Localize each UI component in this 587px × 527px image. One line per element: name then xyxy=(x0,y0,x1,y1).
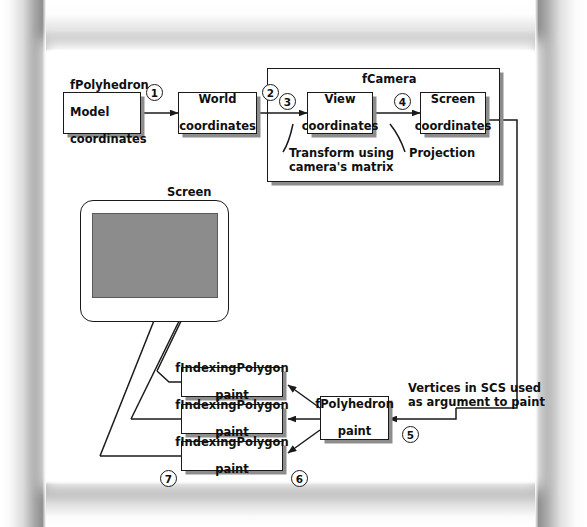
box-indexing-polygon-1-text: fIndexingPolygonpaint xyxy=(169,362,294,403)
annotation-projection: Projection xyxy=(409,147,475,161)
step-number-2: 2 xyxy=(262,84,279,101)
box-indexing-polygon-2-text: fIndexingPolygonpaint xyxy=(169,399,294,440)
box-model-coordinates-text: fPolyhedronModelcoordinates xyxy=(64,79,155,147)
box-world-coordinates[interactable]: Worldcoordinates xyxy=(178,92,257,134)
step-number-1: 1 xyxy=(146,84,163,101)
box-fpolyhedron-paint[interactable]: fPolyhedronpaint xyxy=(320,396,389,440)
step-number-5: 5 xyxy=(402,426,419,443)
step-number-4: 4 xyxy=(394,93,411,110)
annotation-vertices-line2: as argument to paint xyxy=(408,395,545,409)
monitor-display xyxy=(92,213,218,298)
group-fcamera-label: fCamera xyxy=(362,72,416,86)
monitor-frame xyxy=(80,200,229,322)
annotation-vertices-line1: Vertices in SCS used xyxy=(408,381,541,395)
step-number-7: 7 xyxy=(160,470,177,487)
annotation-transform-line1: Transform using xyxy=(289,146,394,160)
box-indexing-polygon-2[interactable]: fIndexingPolygonpaint xyxy=(181,404,283,434)
box-model-coordinates[interactable]: fPolyhedronModelcoordinates xyxy=(63,92,141,134)
box-indexing-polygon-1[interactable]: fIndexingPolygonpaint xyxy=(181,367,283,397)
annotation-transform-line2: camera's matrix xyxy=(289,160,393,174)
box-screen-coordinates[interactable]: Screencoordinates xyxy=(420,92,486,134)
annotation-projection-line1: Projection xyxy=(409,146,475,160)
box-fpolyhedron-paint-text: fPolyhedronpaint xyxy=(309,398,400,439)
annotation-vertices: Vertices in SCS used as argument to pain… xyxy=(408,382,545,410)
box-indexing-polygon-3-text: fIndexingPolygonpaint xyxy=(169,436,294,477)
figure-page: fCamera fPolyhedronModelcoordinates Worl… xyxy=(0,0,587,527)
box-screen-coordinates-text: Screencoordinates xyxy=(409,93,498,134)
screen-label: Screen xyxy=(167,185,212,199)
box-indexing-polygon-3[interactable]: fIndexingPolygonpaint xyxy=(181,441,283,471)
step-number-6: 6 xyxy=(291,470,308,487)
step-number-3: 3 xyxy=(279,93,296,110)
box-view-coordinates[interactable]: Viewcoordinates xyxy=(307,92,373,134)
box-view-coordinates-text: Viewcoordinates xyxy=(296,93,385,134)
box-world-coordinates-text: Worldcoordinates xyxy=(173,93,262,134)
annotation-transform: Transform using camera's matrix xyxy=(289,147,394,175)
